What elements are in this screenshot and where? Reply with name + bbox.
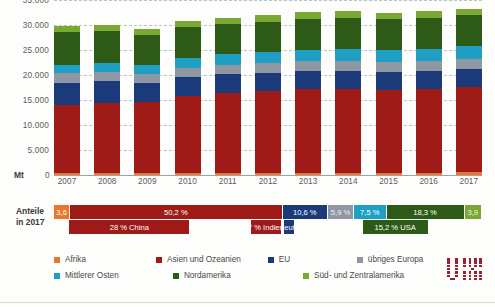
bar-segment [416,61,442,71]
logo-dot [455,268,458,271]
bar-segment [255,173,281,175]
bar-segment [335,49,361,61]
legend-swatch-icon [54,273,60,279]
bar-segment [416,71,442,89]
chart-legend: AfrikaAsien und OzeanienEUübriges Europa… [54,252,454,286]
x-tick-label: 2008 [94,177,120,193]
legend-swatch-icon [54,257,60,263]
bar-segment [295,71,321,89]
legend-label: Süd- und Zentralamerika [314,271,404,280]
bar-segment [376,72,402,90]
stacked-bar-chart: Mt05.00010.00015.00020.00025.00030.00035… [0,0,495,200]
y-tick-label: 30.000 [23,21,49,30]
legend-label: EU [279,255,290,264]
bar-segment [175,173,201,175]
share-country-segment: 2,3 % Deutschland [284,220,294,234]
shares-title-line1: Anteile [16,206,56,217]
y-tick-label: 15.000 [23,96,49,105]
logo-dot [447,275,450,278]
x-tick-label: 2015 [376,177,402,193]
logo-dot [447,258,450,261]
bar-segment [215,24,241,55]
bar-segment [255,63,281,73]
logo-dot [469,265,472,268]
bar-segment [416,49,442,62]
y-tick-label: 20.000 [23,71,49,80]
shares-2017-block: Anteile in 2017 3,650,2 %10,6 %5,9 %7,5 … [0,205,495,245]
bar-segment [335,71,361,89]
legend-item: Asien und Ozeanien [156,252,268,267]
bar-segment [94,81,120,103]
bar-segment [215,54,241,65]
bar-segment [376,62,402,72]
shares-title-line2: in 2017 [16,217,56,228]
bar-segment [94,103,120,174]
share-segment: 50,2 % [70,205,282,219]
bar-segment [175,68,201,77]
x-tick-label: 2017 [456,177,482,193]
logo-dot [455,258,458,261]
bar-column [94,0,120,175]
legend-label: Asien und Ozeanien [167,255,241,264]
bar-segment [54,65,80,74]
legend-item: Süd- und Zentralamerika [303,268,454,283]
logo-dot [447,265,450,268]
x-tick-label: 2009 [134,177,160,193]
bar-segment [54,73,80,83]
x-axis-line [54,175,482,176]
legend-label: übriges Europa [368,255,424,264]
logo-dot [455,271,458,274]
x-tick-label: 2011 [215,177,241,193]
logo-dot [463,278,466,281]
logo-dot [463,258,466,261]
legend-swatch-icon [173,273,179,279]
legend-swatch-icon [303,273,309,279]
bar-segment [335,18,361,49]
logo-dot [447,268,450,271]
footer-divider [0,302,495,303]
share-country-segment: 28 % China [69,220,189,234]
logo-dot [474,278,477,281]
bar-segment [255,52,281,63]
logo-dot [455,275,458,278]
bar-segment [175,77,201,97]
bar-segment [255,22,281,53]
bar-segment [295,173,321,175]
logo-dot [479,278,482,281]
bar-column [416,0,442,175]
wv-stahl-logo [447,258,481,284]
logo-dot [479,261,482,264]
bar-segment [416,89,442,173]
bar-segment [295,19,321,50]
chart-page: Mt05.00010.00015.00020.00025.00030.00035… [0,0,495,307]
bar-column [376,0,402,175]
bar-column [175,0,201,175]
bar-segment [134,74,160,83]
logo-dot [479,275,482,278]
legend-row-1: AfrikaAsien und OzeanienEUübriges Europa [54,252,454,267]
bar-segment [175,58,201,68]
bar-segment [134,83,160,102]
bar-segment [255,73,281,92]
bar-segment [335,89,361,173]
legend-swatch-icon [156,257,162,263]
logo-dot [469,258,472,261]
bar-column [134,0,160,175]
bar-segment [376,19,402,50]
bar-segment [456,69,482,87]
bar-segment [416,173,442,176]
shares-title: Anteile in 2017 [16,206,56,228]
x-tick-label: 2012 [255,177,281,193]
legend-label: Nordamerika [184,271,231,280]
bar-segment [134,173,160,175]
bar-segment [456,15,482,46]
logo-dot [479,265,482,268]
bar-segment [54,32,80,65]
legend-item: Nordamerika [173,268,303,283]
bar-segment [134,35,160,65]
share-country-segment: 7 % Indien [251,220,281,234]
y-tick-label: 0 [45,171,50,180]
logo-dot [469,275,472,278]
bar-segment [456,9,482,16]
bar-column [295,0,321,175]
